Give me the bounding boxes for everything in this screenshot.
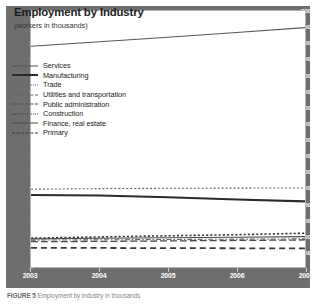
- legend-item-label: Finance, real estate: [43, 119, 106, 128]
- x-tick-label: 2005: [148, 272, 188, 279]
- chart-legend: ServicesManufacturingTradeUtilities and …: [12, 61, 126, 138]
- series-line: [31, 240, 305, 242]
- x-tick-mark: [168, 268, 169, 272]
- legend-line-swatch: [12, 80, 38, 89]
- legend-line-swatch: [12, 71, 38, 80]
- legend-item-label: Construction: [43, 109, 83, 118]
- series-line: [31, 188, 305, 189]
- legend-item[interactable]: Manufacturing: [12, 71, 126, 81]
- x-tick-mark: [30, 268, 31, 272]
- figure-caption-label: FIGURE 5: [7, 292, 36, 299]
- legend-item-label: Trade: [43, 80, 62, 89]
- legend-item-label: Manufacturing: [43, 71, 89, 80]
- x-tick-mark: [99, 268, 100, 272]
- legend-item[interactable]: Trade: [12, 80, 126, 90]
- figure-container: 8000750070006500600055005000450040003500…: [0, 0, 316, 305]
- legend-item[interactable]: Finance, real estate: [12, 119, 126, 129]
- legend-item[interactable]: Construction: [12, 109, 126, 119]
- x-tick-mark: [306, 268, 307, 272]
- plot-panel: [30, 10, 306, 268]
- legend-line-swatch: [12, 90, 38, 99]
- x-tick-label: 2004: [79, 272, 119, 279]
- chart-subtitle: (workers in thousands): [14, 21, 88, 30]
- x-tick-label: 2007: [286, 272, 316, 279]
- legend-line-swatch: [12, 109, 38, 118]
- legend-item[interactable]: Utilities and transportation: [12, 90, 126, 100]
- legend-item[interactable]: Services: [12, 61, 126, 71]
- plot-lines: [31, 11, 305, 267]
- legend-item-label: Services: [43, 61, 71, 70]
- legend-item-label: Utilities and transportation: [43, 90, 126, 99]
- legend-line-swatch: [12, 119, 38, 128]
- legend-item-label: Primary: [43, 128, 68, 137]
- legend-item-label: Public administration: [43, 100, 109, 109]
- legend-item[interactable]: Public administration: [12, 99, 126, 109]
- chart-title: Employment by Industry: [14, 6, 144, 18]
- legend-line-swatch: [12, 100, 38, 109]
- series-line: [31, 195, 305, 201]
- legend-item[interactable]: Primary: [12, 128, 126, 138]
- legend-line-swatch: [12, 61, 38, 70]
- figure-caption: FIGURE 5 Employment by industry in thous…: [7, 292, 307, 300]
- x-tick-label: 2006: [217, 272, 257, 279]
- figure-caption-text: Employment by industry in thousands: [37, 292, 140, 299]
- x-tick-label: 2003: [10, 272, 50, 279]
- series-line: [31, 248, 305, 249]
- legend-line-swatch: [12, 128, 38, 137]
- series-line: [31, 28, 305, 47]
- x-tick-mark: [237, 268, 238, 272]
